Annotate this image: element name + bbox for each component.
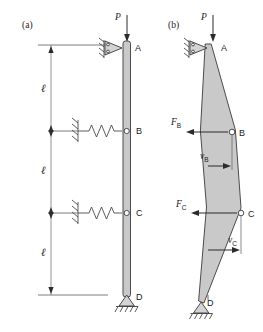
support-b-base-hatch-1 <box>190 314 193 320</box>
support-pin-a-top <box>99 38 122 58</box>
support-b-top-hatch-4 <box>184 53 189 57</box>
panel-b: (b) P A B <box>168 12 255 319</box>
displacement-vc-label: vC <box>228 235 237 247</box>
spring-b-hatch-2 <box>72 124 78 129</box>
load-label-a: P <box>114 12 121 22</box>
support-a-base-hatch-4 <box>130 307 133 313</box>
support-a-top-hatch-4 <box>99 53 104 57</box>
support-b-top-roller-2 <box>192 50 195 53</box>
support-b-base-hatch-4 <box>205 314 208 320</box>
support-a-top-hatch-1 <box>99 38 104 42</box>
node-hinge-b-C <box>238 210 244 216</box>
node-label-b-D: D <box>207 298 214 308</box>
structural-diagram: (a) ℓ ℓ ℓ P <box>0 0 263 332</box>
support-a-top-hatch-3 <box>99 48 104 52</box>
force-fc-label: FC <box>175 199 187 211</box>
node-label-a-D: D <box>136 292 143 302</box>
load-label-b: P <box>200 12 207 22</box>
panel-a: (a) ℓ ℓ ℓ P <box>22 12 143 312</box>
support-b-top-roller-1 <box>192 43 195 46</box>
support-pin-b-top <box>184 38 207 58</box>
support-a-base-hatch-1 <box>115 307 118 313</box>
node-label-b-C: C <box>248 209 255 219</box>
support-a-base-hatch-5 <box>135 307 138 313</box>
load-arrow-b-head <box>210 34 216 42</box>
spring-c-coil <box>78 207 122 219</box>
panel-a-caption: (a) <box>22 20 33 31</box>
support-pin-a-base <box>115 295 138 312</box>
node-hinge-a-B <box>124 128 129 133</box>
length-label-1: ℓ <box>41 82 46 94</box>
force-fc-head <box>191 210 199 216</box>
node-hinge-a-C <box>124 210 129 215</box>
force-fb-subscript: B <box>177 122 181 129</box>
node-hinge-b-B <box>229 129 235 135</box>
node-label-b-A: A <box>221 43 227 53</box>
node-label-b-B: B <box>239 128 245 138</box>
support-b-top-hatch-3 <box>184 48 189 52</box>
displacement-vb-subscript: B <box>204 156 208 163</box>
dimension-arrowhead-b-down <box>48 130 53 137</box>
length-label-2: ℓ <box>41 164 46 176</box>
spring-b-hatch-1 <box>72 118 78 123</box>
spring-c-hatch-2 <box>72 206 78 211</box>
panel-b-caption: (b) <box>168 20 179 31</box>
support-b-base-hatch-5 <box>210 314 213 320</box>
displacement-vc-subscript: C <box>232 240 237 247</box>
spring-assembly-b <box>72 118 122 142</box>
figure-root: (a) ℓ ℓ ℓ P <box>0 0 263 332</box>
displacement-vc-head <box>232 247 240 253</box>
node-label-a-A: A <box>135 43 141 53</box>
dimension-arrowhead-top <box>48 46 53 53</box>
support-a-top-roller-1 <box>107 43 110 46</box>
spring-c-hatch-1 <box>72 200 78 205</box>
support-a-base-triangle <box>119 295 134 306</box>
length-label-3: ℓ <box>41 246 46 258</box>
force-fb-label: FB <box>170 117 181 129</box>
force-fc-subscript: C <box>182 204 187 211</box>
spring-b-coil <box>78 125 122 137</box>
support-a-base-hatch-3 <box>125 307 128 313</box>
column-member-a <box>123 41 131 297</box>
column-member-b-deformed <box>199 44 241 303</box>
support-a-base-hatch-2 <box>120 307 123 313</box>
dimension-arrowhead-c-down <box>48 212 53 219</box>
support-b-base-hatch-2 <box>195 314 198 320</box>
node-label-a-C: C <box>136 208 143 218</box>
spring-c-hatch-4 <box>72 218 78 223</box>
force-fb-head <box>186 129 194 135</box>
support-b-base-hatch-3 <box>200 314 203 320</box>
support-a-top-roller-2 <box>107 50 110 53</box>
support-b-top-hatch-1 <box>184 38 189 42</box>
support-b-top-hatch-2 <box>184 43 189 47</box>
spring-assembly-c <box>72 200 122 224</box>
dimension-arrowhead-bottom <box>48 287 53 294</box>
node-label-a-B: B <box>136 126 142 136</box>
spring-b-hatch-4 <box>72 136 78 141</box>
